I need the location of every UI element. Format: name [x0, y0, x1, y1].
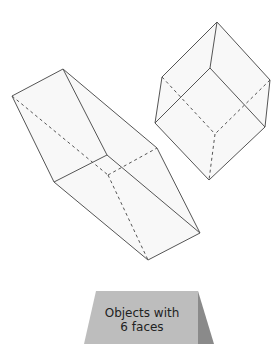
cube: [155, 22, 270, 180]
sort-card-line1: Objects with: [86, 306, 198, 320]
shapes-diagram: [0, 0, 273, 344]
sort-card-label: Objects with 6 faces: [86, 306, 198, 334]
sort-card-line2: 6 faces: [86, 320, 198, 334]
